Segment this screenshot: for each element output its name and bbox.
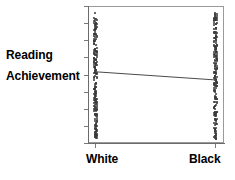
data-point [216,85,218,87]
data-point [216,55,218,57]
data-point [215,93,217,95]
data-point [96,52,98,54]
data-point [216,15,218,17]
data-point [216,111,218,113]
data-point [95,44,97,46]
data-point [96,101,98,103]
y-axis-spine [88,6,89,144]
data-point [96,23,98,25]
data-point [95,34,97,36]
data-point [215,19,217,21]
x-axis-tick-label-black: Black [189,152,221,166]
plot-area [88,6,224,143]
y-axis-tick [84,109,88,110]
data-point [216,58,218,60]
data-point [216,98,218,100]
data-point [94,24,96,26]
y-axis-tick [84,23,88,24]
data-point [96,120,98,122]
data-point [94,134,96,136]
x-axis-tick [215,144,216,148]
y-axis-label-line1: Reading [6,45,84,66]
data-point [93,40,95,42]
data-point [213,62,215,64]
data-point [94,94,96,96]
y-axis-tick [84,57,88,58]
y-axis-tick [84,143,88,144]
x-axis-tick-label-white: White [86,152,118,166]
data-point [215,96,217,98]
x-axis-tick [95,144,96,148]
data-point [96,115,98,117]
data-point [94,48,96,50]
data-point [96,36,98,38]
data-point [214,128,216,130]
data-point [93,79,95,81]
data-point [215,122,217,124]
data-point [215,51,217,53]
y-axis-tick [84,40,88,41]
y-axis-label-line2: Achievement [6,66,84,87]
y-axis-tick [84,75,88,76]
data-point [95,26,97,28]
data-point [215,114,217,116]
chart-screenshot: Reading Achievement White Black [0,0,235,180]
y-axis-tick [84,126,88,127]
data-point [95,113,97,115]
y-axis-tick [84,6,88,7]
data-point [216,118,218,120]
data-point [94,12,96,14]
data-point [214,105,216,107]
data-point [96,98,98,100]
data-point [215,28,217,30]
data-point [214,108,216,110]
scatter-column-white [93,12,98,140]
data-point [216,102,218,104]
data-point [215,104,217,106]
x-axis-spine [88,143,225,144]
data-point [96,106,98,108]
data-point [215,138,217,140]
y-axis-tick [84,92,88,93]
data-point [96,50,98,52]
scatter-column-black [213,12,218,140]
data-point [215,23,217,25]
y-axis-label: Reading Achievement [6,45,84,87]
data-point [213,44,215,46]
data-point [215,82,217,84]
data-point [96,19,98,21]
data-point [95,136,97,138]
